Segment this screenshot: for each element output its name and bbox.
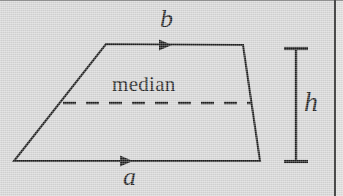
- top-base-arrowhead-icon: [159, 40, 172, 51]
- page-gutter: [336, 0, 343, 196]
- figure-right-border: [334, 0, 336, 196]
- label-top-base-b: b: [160, 6, 173, 32]
- figure-top-border: [0, 0, 343, 1]
- label-median: median: [112, 72, 176, 97]
- label-height-h: h: [304, 88, 318, 116]
- trapezoid-median-figure: b a h median: [0, 0, 343, 196]
- label-bottom-base-a: a: [123, 164, 136, 190]
